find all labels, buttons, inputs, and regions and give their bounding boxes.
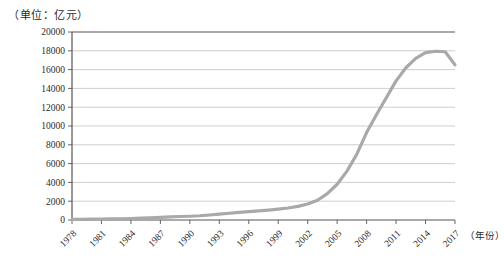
plot-area: 0200040006000800010000120001400016000180… bbox=[0, 0, 504, 267]
y-tick-label: 4000 bbox=[46, 178, 65, 188]
y-tick-label: 6000 bbox=[46, 159, 65, 169]
x-tick-label: 1993 bbox=[205, 228, 226, 249]
x-tick-label: 1987 bbox=[146, 228, 167, 249]
chart-container: （单位：亿元） 02000400060008000100001200014000… bbox=[0, 0, 504, 267]
x-tick-label: 1984 bbox=[117, 228, 138, 249]
y-tick-label: 12000 bbox=[41, 103, 65, 113]
x-tick-label: 1990 bbox=[176, 228, 197, 249]
y-tick-label: 18000 bbox=[41, 46, 65, 56]
x-tick-label: 1978 bbox=[58, 228, 79, 249]
x-tick-label: 2017 bbox=[441, 228, 462, 249]
y-tick-label: 14000 bbox=[41, 84, 65, 94]
x-tick-label: 2011 bbox=[382, 228, 402, 248]
x-tick-label: 2014 bbox=[411, 228, 432, 249]
line-chart-svg: 0200040006000800010000120001400016000180… bbox=[0, 0, 504, 267]
data-series-group bbox=[72, 51, 455, 219]
x-tick-label: 1999 bbox=[264, 228, 285, 249]
y-tick-labels-group: 0200040006000800010000120001400016000180… bbox=[41, 27, 65, 225]
x-tick-label: 1981 bbox=[87, 228, 108, 249]
y-tick-label: 0 bbox=[60, 215, 65, 225]
x-tick-label: 1996 bbox=[235, 228, 256, 249]
x-tick-label: 2002 bbox=[294, 228, 315, 249]
x-tick-label: 2008 bbox=[353, 228, 374, 249]
y-tick-label: 2000 bbox=[46, 197, 65, 207]
y-tick-label: 20000 bbox=[41, 27, 65, 37]
y-tick-label: 16000 bbox=[41, 65, 65, 75]
x-tick-marks-group bbox=[72, 220, 455, 224]
data-line bbox=[72, 51, 455, 219]
y-tick-label: 10000 bbox=[41, 121, 65, 131]
x-tick-label: 2005 bbox=[323, 228, 344, 249]
x-axis-title: （年份） bbox=[465, 228, 504, 242]
y-tick-label: 8000 bbox=[46, 140, 65, 150]
x-tick-labels-group: 1978198119841987199019931996199920022005… bbox=[58, 228, 462, 249]
gridlines-group bbox=[72, 32, 455, 201]
